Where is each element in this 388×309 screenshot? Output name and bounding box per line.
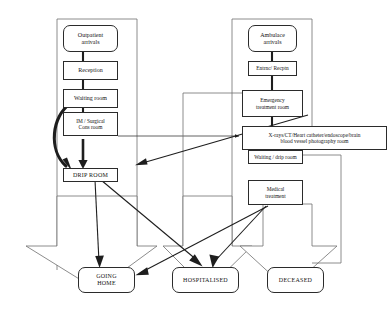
node-im-surgical-cons-room-line2: Cons room [79, 124, 103, 130]
node-going-home[interactable]: GOING HOME [78, 267, 135, 293]
node-waiting-drip-room-label: Waiting / drip room [251, 154, 300, 160]
node-outpatient-arrivals-line1: Outpatient [78, 32, 103, 38]
node-going-home-line2: HOME [97, 280, 116, 286]
node-ambulance-arrivals-line2: arrivals [264, 39, 282, 45]
node-reception[interactable]: Reception [63, 61, 118, 80]
node-ambulance-arrivals-line1: Ambulace [260, 32, 285, 38]
node-hospitalised-label: HOSPITALISED [175, 277, 236, 284]
node-emergency-treatment-room[interactable]: Emergency treatment room [242, 90, 303, 117]
node-outpatient-arrivals[interactable]: Outpatient arrivals [63, 25, 118, 52]
node-waiting-room[interactable]: Waiting room [63, 89, 118, 108]
node-outpatient-arrivals-line2: arrivals [82, 39, 100, 45]
node-reception-label: Reception [66, 67, 115, 74]
node-waiting-room-label: Waiting room [66, 95, 115, 102]
node-imaging-room[interactable]: X-rays/CT/Heart catheter/endoscope/brain… [242, 126, 387, 150]
flowchart-connectors [0, 0, 388, 309]
node-going-home-line1: GOING [96, 273, 117, 279]
node-deceased-label: DECEASED [270, 277, 321, 284]
node-drip-room[interactable]: DRIP ROOM [63, 168, 118, 182]
node-entrance-reception-label: Entrnc/ Recptn [251, 65, 294, 71]
node-imaging-room-line2: blood vessel photography room [280, 138, 348, 144]
node-entrance-reception[interactable]: Entrnc/ Recptn [248, 61, 297, 76]
node-drip-room-label: DRIP ROOM [66, 172, 115, 179]
node-hospitalised[interactable]: HOSPITALISED [172, 267, 239, 293]
node-medical-treatment[interactable]: Medical treatment [248, 180, 303, 205]
node-medical-treatment-line2: treatment [265, 193, 285, 199]
node-waiting-drip-room[interactable]: Waiting / drip room [248, 150, 303, 164]
node-emergency-treatment-room-line2: treatment room [256, 104, 289, 110]
node-ambulance-arrivals[interactable]: Ambulace arrivals [248, 25, 297, 52]
flowchart-canvas: Outpatient arrivals Reception Waiting ro… [0, 0, 388, 309]
node-im-surgical-cons-room[interactable]: IM / Surgical Cons room [63, 112, 118, 136]
edge-cons-to-drip [78, 139, 87, 169]
node-deceased[interactable]: DECEASED [267, 267, 324, 293]
